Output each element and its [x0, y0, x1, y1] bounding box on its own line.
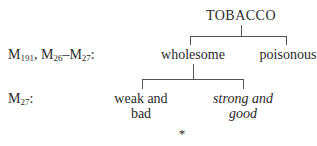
node-strong-and-good: strong and good — [213, 91, 273, 121]
root-node-tobacco: TOBACCO — [206, 8, 276, 23]
level2-label: M27: — [8, 91, 33, 106]
section-break-asterisk: * — [179, 126, 186, 141]
connector-wholesome-vertical — [193, 64, 194, 79]
connector-drop-strong-good — [243, 79, 244, 89]
connector-level2-horizontal — [142, 79, 244, 80]
node-weak-and-bad: weak and bad — [114, 91, 167, 121]
connector-drop-weak-bad — [142, 79, 143, 89]
connector-drop-wholesome — [190, 36, 191, 45]
node-poisonous: poisonous — [260, 47, 317, 62]
connector-root-vertical — [241, 25, 242, 36]
node-weak-and-bad-line2: bad — [114, 106, 167, 121]
node-weak-and-bad-line1: weak and — [114, 91, 167, 106]
connector-level1-horizontal — [190, 36, 287, 37]
node-strong-and-good-line2: good — [213, 106, 273, 121]
connector-drop-poisonous — [286, 36, 287, 45]
node-strong-and-good-line1: strong and — [213, 91, 273, 106]
level1-label: M191, M26–M27: — [8, 47, 95, 62]
node-wholesome: wholesome — [161, 47, 225, 62]
